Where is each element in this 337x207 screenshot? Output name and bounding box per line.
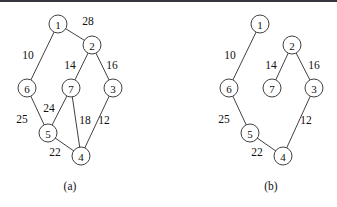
panel-a-node-group: 1234567 <box>18 15 122 165</box>
panel-b-node-group: 1234567 <box>220 15 323 165</box>
edge-weight-b-2-7: 14 <box>265 59 277 71</box>
panel-caption-b: (b) <box>264 180 278 193</box>
edge-weight-b-3-4: 12 <box>300 114 312 126</box>
node-label-a-5: 5 <box>45 128 51 140</box>
node-label-b-6: 6 <box>226 83 232 95</box>
edge-weight-a-7-4: 18 <box>79 114 91 126</box>
edge-a-6-5 <box>31 96 44 125</box>
panel-caption-a: (a) <box>64 180 77 193</box>
panel-caption-group: (a)(b) <box>64 180 278 193</box>
node-label-b-7: 7 <box>269 83 275 95</box>
graph-figure-canvas: 1234567 281014162524181222 1234567 10141… <box>0 0 337 207</box>
edge-weight-b-5-4: 22 <box>251 146 263 158</box>
figure-root: 1234567 281014162524181222 1234567 10141… <box>0 0 337 207</box>
node-label-b-3: 3 <box>311 83 317 95</box>
edge-weight-a-5-4: 22 <box>49 146 61 158</box>
node-label-a-7: 7 <box>68 83 74 95</box>
edge-a-1-6 <box>31 32 54 80</box>
edge-a-1-2 <box>66 29 85 41</box>
node-label-a-6: 6 <box>24 83 30 95</box>
edge-weight-a-1-2: 28 <box>82 15 94 27</box>
edge-weight-b-2-3: 16 <box>308 59 320 71</box>
edge-weight-b-6-5: 25 <box>218 113 230 125</box>
edge-weight-a-6-5: 25 <box>16 113 28 125</box>
edge-b-6-5 <box>233 96 246 125</box>
node-label-a-4: 4 <box>78 151 84 163</box>
node-label-a-1: 1 <box>55 19 61 31</box>
edge-weight-a-7-5: 24 <box>43 102 55 114</box>
node-label-b-5: 5 <box>247 128 253 140</box>
node-label-a-2: 2 <box>89 40 95 52</box>
node-label-a-3: 3 <box>110 83 116 95</box>
edge-weight-b-1-6: 10 <box>224 49 236 61</box>
edge-weight-a-3-4: 12 <box>98 114 110 126</box>
node-label-b-4: 4 <box>280 151 286 163</box>
edge-weight-a-1-6: 10 <box>22 49 34 61</box>
edge-b-1-6 <box>233 32 256 80</box>
edge-weight-a-2-3: 16 <box>106 59 118 71</box>
edge-weight-a-2-7: 14 <box>64 59 76 71</box>
edge-a-2-7 <box>75 53 88 80</box>
edge-b-2-7 <box>276 53 288 80</box>
node-label-b-1: 1 <box>257 19 263 31</box>
panel-b-weight-group: 101416251222 <box>218 49 320 158</box>
node-label-b-2: 2 <box>289 40 295 52</box>
